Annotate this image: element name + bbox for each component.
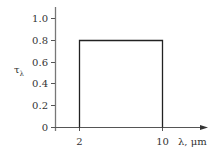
y-axis-label: τλ bbox=[14, 64, 25, 78]
y-ticks bbox=[51, 19, 55, 128]
x-axis-arrow-icon bbox=[200, 125, 208, 130]
x-tick-label: 10 bbox=[156, 136, 169, 147]
y-tick-label: 0.2 bbox=[32, 100, 48, 111]
x-tick-label: 2 bbox=[76, 136, 82, 147]
y-tick-label: 1.0 bbox=[32, 13, 48, 24]
y-tick-label: 0.8 bbox=[32, 35, 48, 46]
x-axis-label: λ, μm bbox=[178, 136, 207, 147]
y-tick-label: 0.6 bbox=[32, 57, 48, 68]
transmissivity-curve bbox=[80, 41, 163, 128]
chart-canvas: 1.0 0.8 0.6 0.4 0.2 0 τλ 2 10 λ, μm bbox=[0, 0, 218, 151]
y-tick-label: 0.4 bbox=[32, 78, 48, 89]
y-axis-label-sub: λ bbox=[20, 70, 25, 78]
y-tick-label: 0 bbox=[42, 122, 48, 133]
